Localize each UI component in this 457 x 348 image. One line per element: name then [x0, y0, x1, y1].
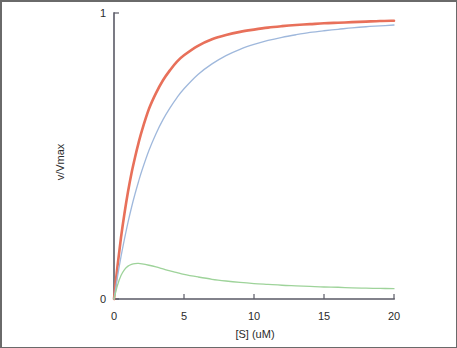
series-blue-curve [114, 25, 394, 299]
series-green-curve [114, 263, 394, 299]
axes-group [114, 13, 394, 299]
x-tick-label: 20 [388, 310, 400, 322]
x-tick-label: 10 [248, 310, 260, 322]
tick-marks [114, 13, 394, 299]
series-red-curve [114, 21, 394, 299]
y-tick-label: 1 [100, 7, 106, 19]
x-tick-label: 0 [111, 310, 117, 322]
x-tick-label: 15 [318, 310, 330, 322]
figure-frame: 05101520 01 [S] (uM) v/Vmax [0, 0, 457, 348]
x-axis-title: [S] (uM) [235, 328, 274, 340]
data-series-group [114, 21, 394, 299]
axis-lines [114, 13, 394, 299]
x-tick-label: 5 [181, 310, 187, 322]
y-tick-labels: 01 [100, 7, 106, 305]
y-axis-title: v/Vmax [54, 143, 66, 180]
x-tick-labels: 05101520 [111, 310, 400, 322]
chart-canvas: 05101520 01 [S] (uM) v/Vmax [2, 2, 457, 348]
y-tick-label: 0 [100, 293, 106, 305]
